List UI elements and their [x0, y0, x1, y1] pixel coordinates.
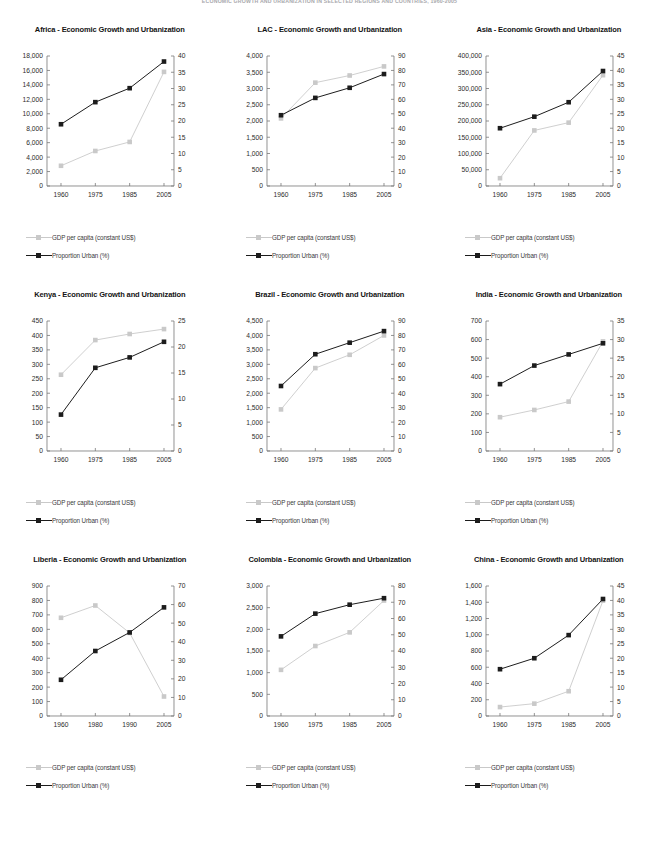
- legend-item-gdp: GDP per capita (constant US$): [465, 228, 659, 246]
- urban-marker: [498, 126, 503, 131]
- chart-legend: GDP per capita (constant US$)Proportion …: [0, 758, 220, 794]
- legend-swatch-icon: [246, 516, 272, 525]
- legend-label: GDP per capita (constant US$): [52, 234, 135, 241]
- y2-axis-tick-label: 25: [178, 317, 186, 324]
- urban-marker: [567, 633, 572, 638]
- y2-axis-tick-label: 45: [617, 52, 625, 59]
- urban-line: [61, 342, 164, 415]
- chart-title: LAC - Economic Growth and Urbanization: [227, 24, 431, 36]
- chart-panel: Kenya - Economic Growth and Urbanization…: [0, 283, 220, 548]
- y-axis-tick-label: 400: [471, 373, 482, 380]
- y-axis-tick-label: 3,500: [246, 346, 263, 353]
- urban-marker: [498, 667, 503, 672]
- urban-marker: [381, 596, 386, 601]
- y2-axis-tick-label: 30: [398, 139, 406, 146]
- chart-svg: 02004006008001,0001,2001,4001,6000510152…: [439, 566, 659, 756]
- x-axis-tick-label: 2005: [157, 721, 172, 728]
- chart-panel: Asia - Economic Growth and Urbanization0…: [439, 18, 659, 283]
- chart-plot: 02,0004,0006,0008,00010,00012,00014,0001…: [0, 36, 220, 226]
- legend-item-urban: Proportion Urban (%): [26, 511, 220, 529]
- y-axis-tick-label: 350: [32, 346, 43, 353]
- gdp-marker: [532, 128, 537, 133]
- y-axis-tick-label: 100: [32, 419, 43, 426]
- gdp-marker: [381, 333, 386, 338]
- urban-marker: [313, 352, 318, 357]
- urban-marker: [313, 96, 318, 101]
- y2-axis-tick-label: 0: [178, 447, 182, 454]
- chart-legend: GDP per capita (constant US$)Proportion …: [0, 228, 220, 264]
- chart-legend: GDP per capita (constant US$)Proportion …: [439, 758, 659, 794]
- gdp-marker: [162, 694, 167, 699]
- x-axis-tick-label: 1975: [307, 721, 322, 728]
- x-axis-tick-label: 1985: [342, 721, 357, 728]
- urban-line: [500, 343, 603, 384]
- y2-axis-tick-label: 25: [178, 101, 186, 108]
- x-axis-tick-label: 1975: [88, 456, 103, 463]
- y2-axis-tick-label: 20: [617, 373, 625, 380]
- gdp-marker: [567, 120, 572, 125]
- y-axis-tick-label: 700: [32, 611, 43, 618]
- y2-axis-tick-label: 0: [178, 182, 182, 189]
- urban-line: [281, 331, 384, 386]
- x-axis-tick-label: 2005: [596, 721, 611, 728]
- y-axis-tick-label: 4,000: [246, 332, 263, 339]
- urban-marker: [93, 649, 98, 654]
- gdp-line: [500, 75, 603, 178]
- y2-axis-tick-label: 20: [398, 419, 406, 426]
- gdp-line: [61, 72, 164, 166]
- y2-axis-tick-label: 20: [178, 117, 186, 124]
- y-axis-tick-label: 3,500: [246, 69, 263, 76]
- y-axis-tick-label: 100: [32, 698, 43, 705]
- legend-item-gdp: GDP per capita (constant US$): [465, 493, 659, 511]
- legend-swatch-icon: [246, 233, 272, 242]
- y2-axis-tick-label: 20: [617, 125, 625, 132]
- y-axis-tick-label: 0: [39, 712, 43, 719]
- y2-axis-tick-label: 0: [398, 182, 402, 189]
- legend-item-gdp: GDP per capita (constant US$): [246, 228, 440, 246]
- gdp-line: [500, 601, 603, 707]
- y2-axis-tick-label: 40: [398, 390, 406, 397]
- legend-swatch-icon: [26, 251, 52, 260]
- chart-legend: GDP per capita (constant US$)Proportion …: [439, 228, 659, 264]
- x-axis-tick-label: 1985: [342, 191, 357, 198]
- legend-label: Proportion Urban (%): [52, 782, 109, 789]
- y-axis-tick-label: 400: [32, 655, 43, 662]
- urban-marker: [162, 59, 167, 64]
- y-axis-tick-label: 0: [478, 447, 482, 454]
- y-axis-tick-label: 3,000: [246, 85, 263, 92]
- urban-line: [61, 607, 164, 679]
- y2-axis-tick-label: 60: [178, 601, 186, 608]
- legend-swatch-icon: [465, 251, 491, 260]
- chart-panel: Colombia - Economic Growth and Urbanizat…: [220, 548, 440, 813]
- chart-plot: 05001,0001,5002,0002,5003,0003,5004,0000…: [220, 36, 440, 226]
- chart-title: Asia - Economic Growth and Urbanization: [447, 24, 651, 36]
- y-axis-tick-label: 450: [32, 317, 43, 324]
- y-axis-tick-label: 800: [471, 647, 482, 654]
- y2-axis-tick-label: 30: [617, 336, 625, 343]
- y-axis-tick-label: 150: [32, 404, 43, 411]
- urban-marker: [347, 602, 352, 607]
- y2-axis-tick-label: 0: [617, 182, 621, 189]
- legend-swatch-icon: [246, 781, 272, 790]
- y-axis-tick-label: 200: [32, 390, 43, 397]
- x-axis-tick-label: 2005: [376, 191, 391, 198]
- y-axis-tick-label: 1,500: [246, 647, 263, 654]
- urban-marker: [347, 85, 352, 90]
- y2-axis-tick-label: 30: [178, 85, 186, 92]
- y2-axis-tick-label: 0: [617, 447, 621, 454]
- gdp-marker: [93, 603, 98, 608]
- urban-marker: [127, 630, 132, 635]
- chart-svg: 050,000100,000150,000200,000250,000300,0…: [439, 36, 659, 226]
- urban-line: [500, 71, 603, 128]
- legend-label: GDP per capita (constant US$): [52, 499, 135, 506]
- y2-axis-tick-label: 30: [398, 404, 406, 411]
- x-axis-tick-label: 2005: [596, 456, 611, 463]
- x-axis-tick-label: 1985: [342, 456, 357, 463]
- y2-axis-tick-label: 25: [617, 640, 625, 647]
- y-axis-tick-label: 100,000: [458, 150, 482, 157]
- y-axis-tick-label: 250: [32, 375, 43, 382]
- y2-axis-tick-label: 50: [398, 375, 406, 382]
- legend-swatch-icon: [246, 251, 272, 260]
- chart-panel: Liberia - Economic Growth and Urbanizati…: [0, 548, 220, 813]
- y2-axis-tick-label: 5: [178, 166, 182, 173]
